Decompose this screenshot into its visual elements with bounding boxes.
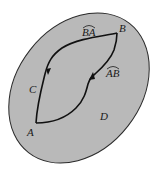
region-d	[0, 0, 158, 172]
diagram-canvas: BA B AB C D A	[0, 0, 158, 172]
label-point-b: B	[119, 22, 126, 34]
label-region-d: D	[99, 110, 108, 122]
label-point-c: C	[29, 83, 37, 95]
label-arc-ba: BA	[82, 26, 96, 38]
label-point-a: A	[26, 126, 34, 138]
